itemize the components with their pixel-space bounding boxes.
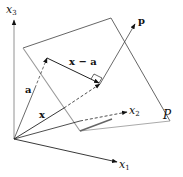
vector-a-label: a (25, 85, 31, 95)
plane-p (23, 18, 170, 131)
vector-p-label: p (138, 16, 145, 26)
axis-x1 (14, 139, 117, 162)
axis-x3-label: x3 (6, 4, 17, 17)
plane-label: P (163, 109, 171, 121)
axis-x2 (14, 112, 127, 139)
vector-x-label: x (39, 110, 45, 120)
axis-x1-label: x1 (119, 159, 130, 172)
vector-x-minus-a-label: x − a (69, 57, 97, 67)
axis-x2-label: x2 (129, 105, 140, 118)
vector-a (14, 58, 47, 139)
vector-p (100, 24, 135, 84)
projection-diagram: x3 x1 x2 a x x − a p P (0, 0, 183, 177)
